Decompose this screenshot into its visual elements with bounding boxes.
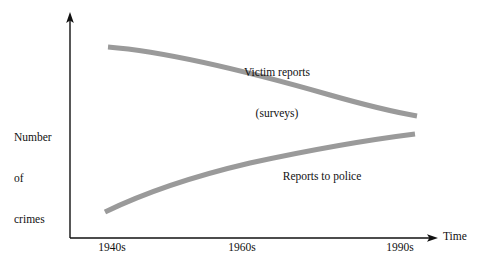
- y-axis-label: Number of crimes: [14, 104, 52, 253]
- y-axis-label-line-2: of: [14, 172, 52, 186]
- series-label-victim-line-2: (surveys): [244, 107, 310, 121]
- chart-plot-area: [0, 0, 482, 274]
- x-axis-tick-label-1960s: 1960s: [228, 241, 255, 255]
- series-label-victim-line-1: Victim reports: [244, 66, 310, 80]
- x-axis-label: Time: [443, 230, 467, 244]
- y-axis-label-line-1: Number: [14, 131, 52, 145]
- x-axis-tick-label-1940s: 1940s: [98, 241, 125, 255]
- x-axis-tick-label-1990s: 1990s: [386, 241, 413, 255]
- chart-figure: Number of crimes Time 1940s 1960s 1990s …: [0, 0, 482, 274]
- y-axis-label-line-3: crimes: [14, 213, 52, 227]
- series-label-reports-to-police: Reports to police: [283, 170, 362, 184]
- series-label-victim-reports: Victim reports (surveys): [244, 39, 310, 148]
